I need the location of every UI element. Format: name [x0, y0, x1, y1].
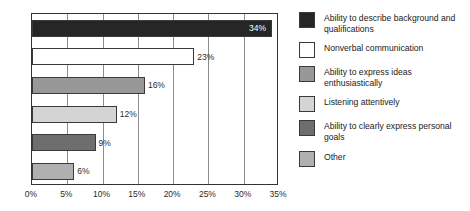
bar-row: 16% — [32, 71, 279, 100]
bar-row: 34% — [32, 14, 279, 43]
bar[interactable]: 12% — [32, 106, 117, 123]
legend-item[interactable]: Ability to clearly express personal goal… — [299, 120, 467, 142]
legend-swatch — [299, 42, 315, 58]
legend-item[interactable]: Ability to describe background and quali… — [299, 12, 467, 34]
x-tick-label: 35% — [269, 189, 286, 199]
bar-value-label: 23% — [197, 53, 214, 62]
bar-value-label: 6% — [77, 167, 89, 176]
legend-item[interactable]: Other — [299, 151, 467, 167]
legend-swatch — [299, 12, 315, 28]
x-tick-label: 30% — [234, 189, 251, 199]
legend-item-label: Ability to describe background and quali… — [324, 12, 467, 34]
bar-value-label: 16% — [148, 81, 165, 90]
bar-chart-figure: 34%23%16%12%9%6% 0%5%10%15%20%25%30%35% … — [0, 0, 470, 211]
legend-item[interactable]: Listening attentively — [299, 96, 467, 112]
legend-item-label: Nonverbal communication — [324, 42, 423, 54]
bar-value-label: 9% — [99, 139, 111, 148]
legend-swatch — [299, 120, 315, 136]
x-tick-label: 15% — [128, 189, 145, 199]
legend-swatch — [299, 66, 315, 82]
legend-item[interactable]: Ability to express ideas enthusiasticall… — [299, 66, 467, 88]
x-tick-label: 5% — [60, 189, 72, 199]
x-tick-label: 20% — [164, 189, 181, 199]
legend: Ability to describe background and quali… — [299, 12, 467, 175]
bar[interactable]: 23% — [32, 48, 194, 65]
x-axis: 0%5%10%15%20%25%30%35% — [31, 189, 278, 203]
bar-value-label: 34% — [249, 24, 271, 33]
bar-row: 23% — [32, 43, 279, 72]
legend-swatch — [299, 96, 315, 112]
legend-item-label: Ability to express ideas enthusiasticall… — [324, 66, 467, 88]
legend-item[interactable]: Nonverbal communication — [299, 42, 467, 58]
x-tick-label: 25% — [199, 189, 216, 199]
legend-swatch — [299, 151, 315, 167]
legend-item-label: Other — [324, 151, 346, 163]
legend-item-label: Listening attentively — [324, 96, 399, 108]
bar[interactable]: 34% — [32, 20, 272, 37]
plot-area: 34%23%16%12%9%6% — [31, 13, 278, 185]
x-tick-label: 10% — [93, 189, 110, 199]
x-tick-label: 0% — [25, 189, 37, 199]
bar-value-label: 12% — [120, 110, 137, 119]
bar-series: 34%23%16%12%9%6% — [32, 14, 277, 184]
bar-row: 12% — [32, 100, 279, 129]
bar-row: 9% — [32, 129, 279, 158]
bar[interactable]: 16% — [32, 77, 145, 94]
bar[interactable]: 6% — [32, 163, 74, 180]
bar-row: 6% — [32, 157, 279, 186]
bar[interactable]: 9% — [32, 134, 96, 151]
legend-item-label: Ability to clearly express personal goal… — [324, 120, 467, 142]
